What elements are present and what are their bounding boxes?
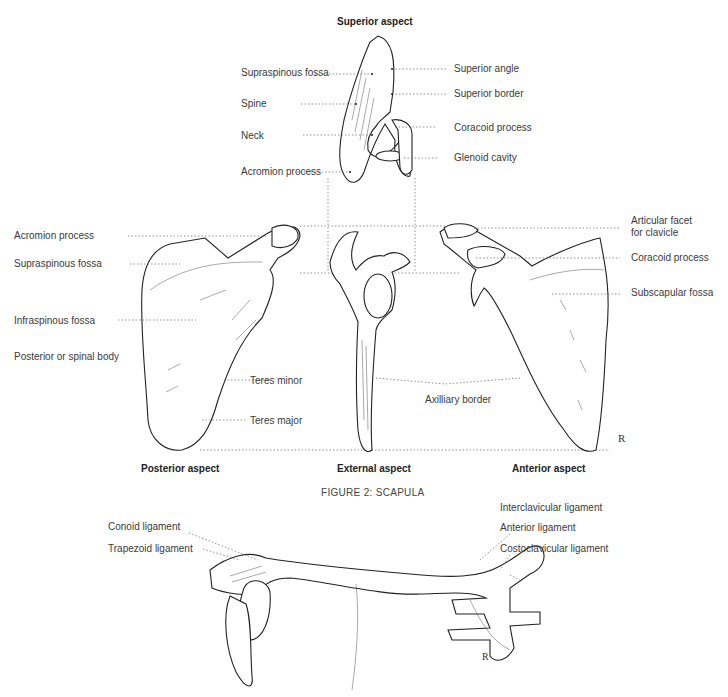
anterior-aspect-drawing — [440, 224, 608, 452]
label-acromion-process-posterior: Acromion process — [14, 230, 94, 242]
label-superior-border: Superior border — [454, 88, 523, 100]
anterior-aspect-heading: Anterior aspect — [512, 463, 585, 474]
label-coracoid-process-anterior: Coracoid process — [631, 252, 709, 264]
clavicle-sternum-drawing — [210, 546, 544, 690]
figure-caption: FIGURE 2: SCAPULA — [321, 487, 424, 498]
superior-aspect-heading: Superior aspect — [337, 16, 413, 27]
label-articular-facet: Articular facet — [631, 215, 692, 227]
label-conoid-ligament: Conoid ligament — [108, 521, 180, 533]
label-posterior-spinal-body: Posterior or spinal body — [14, 351, 119, 363]
label-neck: Neck — [241, 130, 264, 142]
posterior-aspect-heading: Posterior aspect — [141, 463, 219, 474]
label-for-clavicle: for clavicle — [631, 227, 678, 239]
signature-mark-top: R — [618, 432, 626, 444]
external-aspect-heading: External aspect — [337, 463, 411, 474]
label-supraspinous-fossa-posterior: Supraspinous fossa — [14, 258, 102, 270]
external-aspect-drawing — [330, 232, 410, 452]
label-costoclavicular-ligament: Costoclavicular ligament — [500, 543, 608, 555]
label-infraspinous-fossa: Infraspinous fossa — [14, 315, 95, 327]
label-acromion-process-superior: Acromion process — [241, 166, 321, 178]
label-axilliary-border: Axilliary border — [425, 394, 491, 406]
signature-mark-bottom: R — [482, 651, 489, 662]
label-interclavicular-ligament: Interclavicular ligament — [500, 502, 602, 514]
label-glenoid-cavity: Glenoid cavity — [454, 152, 517, 164]
label-coracoid-process-superior: Coracoid process — [454, 122, 532, 134]
label-anterior-ligament: Anterior ligament — [500, 522, 576, 534]
superior-aspect-drawing — [340, 36, 412, 182]
label-teres-minor: Teres minor — [250, 375, 302, 387]
label-subscapular-fossa: Subscapular fossa — [631, 287, 713, 299]
label-trapezoid-ligament: Trapezoid ligament — [108, 543, 193, 555]
scapula-illustration: R R — [0, 0, 728, 697]
label-superior-angle: Superior angle — [454, 63, 519, 75]
label-teres-major: Teres major — [250, 415, 302, 427]
label-supraspinous-fossa-superior: Supraspinous fossa — [241, 67, 329, 79]
label-spine: Spine — [241, 98, 267, 110]
